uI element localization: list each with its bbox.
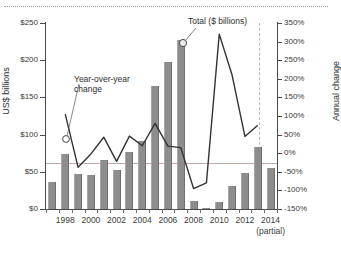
bar-2014: [267, 168, 275, 209]
right-tick-label-8: 250%: [284, 56, 304, 64]
x-tick-1: [59, 209, 60, 213]
bar-2010: [215, 202, 223, 209]
right-tick-6: [277, 97, 282, 98]
x-tick-label-2014: 2014: [255, 215, 287, 225]
x-tick-6: [123, 209, 124, 213]
x-tick-11: [187, 209, 188, 213]
bar-2007: [177, 40, 185, 209]
left-tick-label-1: $50: [25, 168, 38, 176]
left-tick-3: [40, 97, 45, 98]
x-tick-3: [85, 209, 86, 213]
left-tick-0: [40, 209, 45, 210]
left-tick-2: [40, 135, 45, 136]
x-tick-12: [200, 209, 201, 213]
annotation-yoy-label: Year-over-year change: [74, 74, 130, 94]
right-tick-label-3: 0%: [284, 149, 296, 157]
x-tick-sublabel-partial: (partial): [253, 226, 289, 236]
bar-1999: [74, 174, 82, 209]
x-tick-17: [264, 209, 265, 213]
right-tick-4: [277, 135, 282, 136]
x-tick-0: [46, 209, 47, 213]
left-tick-1: [40, 172, 45, 173]
right-tick-5: [277, 116, 282, 117]
right-tick-label-9: 300%: [284, 38, 304, 46]
left-tick-label-2: $100: [20, 131, 38, 139]
x-tick-16: [251, 209, 252, 213]
left-tick-label-0: $0: [29, 205, 38, 213]
bar-2012: [241, 173, 249, 209]
x-tick-9: [162, 209, 163, 213]
right-tick-7: [277, 79, 282, 80]
bar-2006: [164, 62, 172, 209]
right-tick-label-6: 150%: [284, 93, 304, 101]
x-tick-5: [110, 209, 111, 213]
x-tick-8: [149, 209, 150, 213]
right-tick-label-5: 100%: [284, 112, 304, 120]
x-tick-15: [239, 209, 240, 213]
plot-area: [46, 23, 277, 209]
right-tick-10: [277, 23, 282, 24]
bar-1998: [61, 154, 69, 209]
right-tick-9: [277, 42, 282, 43]
right-tick-8: [277, 60, 282, 61]
left-tick-label-3: $150: [20, 93, 38, 101]
x-tick-10: [174, 209, 175, 213]
x-tick-14: [226, 209, 227, 213]
right-tick-label-1: -100%: [284, 186, 307, 194]
bar-2001: [100, 160, 108, 209]
bar-1997: [48, 182, 56, 209]
x-tick-4: [97, 209, 98, 213]
y-axis-title-left: US$ billions: [1, 51, 11, 131]
right-tick-label-4: 50%: [284, 131, 300, 139]
bar-2000: [87, 175, 95, 209]
right-tick-1: [277, 190, 282, 191]
left-tick-4: [40, 60, 45, 61]
bar-2004: [138, 141, 146, 209]
x-tick-7: [136, 209, 137, 213]
right-tick-2: [277, 172, 282, 173]
annotation-total-label: Total ($ billions): [188, 16, 247, 26]
x-tick-18: [277, 209, 278, 213]
bar-2011: [228, 186, 236, 209]
top-dotted-rule: [4, 6, 328, 7]
bar-2009: [202, 208, 210, 209]
right-tick-label-0: -150%: [284, 205, 307, 213]
x-tick-13: [213, 209, 214, 213]
bar-2005: [151, 86, 159, 210]
right-tick-label-10: 350%: [284, 19, 304, 27]
left-tick-5: [40, 23, 45, 24]
x-tick-2: [72, 209, 73, 213]
bar-2013: [254, 147, 262, 209]
right-tick-3: [277, 153, 282, 154]
bar-2003: [125, 152, 133, 209]
right-tick-label-2: -50%: [284, 168, 303, 176]
bar-2008: [190, 201, 198, 209]
y-axis-title-right: Annual change: [331, 51, 341, 131]
left-tick-label-5: $250: [20, 19, 38, 27]
right-tick-label-7: 200%: [284, 75, 304, 83]
left-tick-label-4: $200: [20, 56, 38, 64]
bar-2002: [113, 170, 121, 209]
